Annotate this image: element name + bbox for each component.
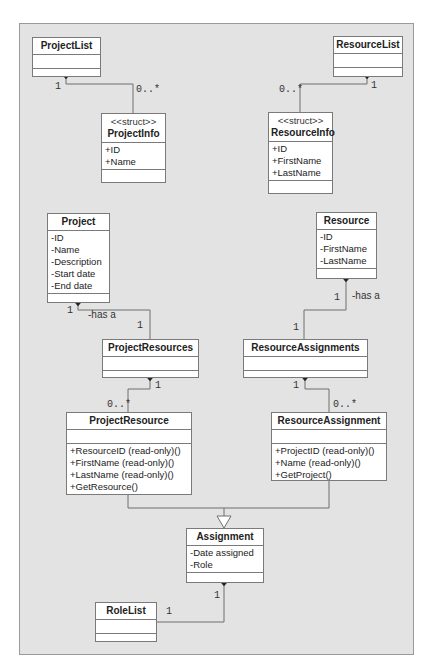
multiplicity-label: 1 — [293, 380, 299, 391]
class-project-resources[interactable]: ProjectResources — [102, 339, 199, 378]
class-resource-info[interactable]: <<struct>> ResourceInfo +ID +FirstName +… — [268, 112, 333, 194]
attribute: +Name — [105, 156, 162, 168]
connector-resourcelist-resourceinfo — [300, 78, 367, 112]
attribute: -ID — [320, 231, 373, 243]
class-name: Resource — [319, 215, 374, 227]
class-name: ProjectResources — [105, 342, 196, 354]
connector-projectlist-projectinfo — [66, 78, 133, 113]
operations-section — [334, 68, 402, 81]
attribute: +FirstName — [272, 155, 329, 167]
role-label: -has a — [352, 290, 380, 301]
class-name: Project — [50, 216, 107, 228]
attributes-section: -ID -FirstName -LastName — [317, 230, 376, 269]
multiplicity-label: 1 — [371, 80, 377, 91]
attributes-section — [33, 55, 100, 69]
multiplicity-label: 1 — [67, 305, 73, 316]
class-name: ResourceList — [336, 39, 400, 51]
multiplicity-label: 1 — [155, 380, 161, 391]
class-resource-assignments[interactable]: ResourceAssignments — [243, 339, 368, 378]
multiplicity-label: 1 — [137, 320, 143, 331]
class-project[interactable]: Project -ID -Name -Description -Start da… — [47, 213, 110, 303]
generalization-triangle-icon — [217, 516, 231, 528]
attribute: -LastName — [320, 255, 373, 267]
multiplicity-label: 0..* — [333, 399, 357, 410]
operation: +GetProject() — [275, 469, 383, 481]
operation: +GetResource() — [70, 481, 188, 493]
attribute: -Start date — [51, 268, 106, 280]
operations-section — [317, 269, 376, 282]
operations-section — [96, 634, 156, 647]
class-name: RoleList — [98, 605, 154, 617]
class-name: ProjectResource — [69, 415, 189, 427]
role-label: -has a — [88, 309, 116, 320]
multiplicity-label: 1 — [334, 292, 340, 303]
attributes-section: -ID -Name -Description -Start date -End … — [48, 231, 109, 294]
class-name: Assignment — [189, 531, 261, 543]
connector-projectresources-projectresource — [128, 380, 150, 412]
connector-resource-resourceassignments — [304, 281, 346, 339]
attribute: -Role — [190, 559, 260, 571]
attribute: +ID — [272, 143, 329, 155]
class-name: ProjectInfo — [104, 128, 163, 140]
operation: +Name (read-only)() — [275, 457, 383, 469]
operations-section: +ResourceID (read-only)() +FirstName (re… — [67, 444, 191, 494]
attributes-section — [103, 357, 198, 371]
attributes-section — [244, 357, 367, 371]
class-project-list[interactable]: ProjectList — [32, 37, 101, 77]
multiplicity-label: 1 — [55, 81, 61, 92]
class-name: ResourceAssignments — [246, 342, 365, 354]
operations-section — [33, 69, 100, 82]
attributes-section — [96, 620, 156, 634]
class-resource-assignment[interactable]: ResourceAssignment +ProjectID (read-only… — [271, 412, 387, 481]
attribute: -Name — [51, 244, 106, 256]
operations-section — [187, 573, 263, 586]
operations-section — [103, 371, 198, 384]
multiplicity-label: 0..* — [107, 399, 131, 410]
multiplicity-label: 1 — [293, 322, 299, 333]
attributes-section: -Date assigned -Role — [187, 546, 263, 573]
operations-section — [102, 170, 165, 183]
multiplicity-label: 0..* — [279, 84, 303, 95]
attributes-section: +ID +FirstName +LastName — [269, 142, 332, 181]
attribute: +LastName — [272, 167, 329, 179]
operations-section — [269, 181, 332, 194]
class-name: ProjectList — [35, 40, 98, 52]
attribute: +ID — [105, 144, 162, 156]
attributes-section — [334, 54, 402, 68]
attribute: -FirstName — [320, 243, 373, 255]
multiplicity-label: 0..* — [136, 84, 160, 95]
attribute: -Description — [51, 256, 106, 268]
connector-resourceassignments-resourceassignment — [305, 380, 329, 412]
class-assignment[interactable]: Assignment -Date assigned -Role — [186, 528, 264, 583]
class-project-info[interactable]: <<struct>> ProjectInfo +ID +Name — [101, 113, 166, 183]
operation: +FirstName (read-only)() — [70, 457, 188, 469]
attribute: -End date — [51, 280, 106, 292]
attributes-section — [272, 430, 386, 444]
class-project-resource[interactable]: ProjectResource +ResourceID (read-only)(… — [66, 412, 192, 495]
operation: +ProjectID (read-only)() — [275, 445, 383, 457]
operations-section — [48, 294, 109, 307]
class-name: ResourceInfo — [271, 127, 330, 139]
class-name: ResourceAssignment — [274, 415, 384, 427]
attribute: -ID — [51, 232, 106, 244]
multiplicity-label: 1 — [214, 590, 220, 601]
operation: +ResourceID (read-only)() — [70, 445, 188, 457]
stereotype: <<struct>> — [271, 115, 330, 127]
operation: +LastName (read-only)() — [70, 469, 188, 481]
operations-section: +ProjectID (read-only)() +Name (read-onl… — [272, 444, 386, 482]
operations-section — [244, 371, 367, 384]
stereotype: <<struct>> — [104, 116, 163, 128]
class-resource[interactable]: Resource -ID -FirstName -LastName — [316, 212, 377, 279]
class-role-list[interactable]: RoleList — [95, 602, 157, 642]
attribute: -Date assigned — [190, 547, 260, 559]
class-resource-list[interactable]: ResourceList — [333, 36, 403, 77]
multiplicity-label: 1 — [166, 606, 172, 617]
attributes-section — [67, 430, 191, 444]
attributes-section: +ID +Name — [102, 143, 165, 170]
